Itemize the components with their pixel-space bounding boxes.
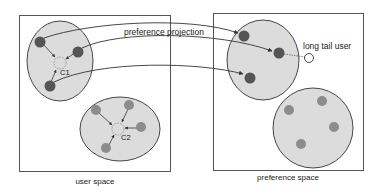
long-tail-user-node xyxy=(305,54,314,63)
cluster-label-c2: C2 xyxy=(121,133,131,142)
preference-space-caption: preference space xyxy=(257,173,319,182)
preference-node xyxy=(329,122,339,132)
preference-node xyxy=(245,73,256,84)
user-node xyxy=(136,122,146,132)
preference-cluster-top xyxy=(227,20,299,100)
preference-cluster-bottom xyxy=(273,88,353,168)
cluster-c2: C2 xyxy=(80,97,160,161)
diagram-canvas: C1 C2 user space xyxy=(0,0,384,194)
cluster-label-c1: C1 xyxy=(60,68,70,77)
preference-node xyxy=(239,31,250,42)
user-node xyxy=(35,37,46,48)
preference-node xyxy=(317,96,327,106)
user-space-panel: C1 C2 user space xyxy=(20,16,171,187)
user-space-caption: user space xyxy=(75,177,115,186)
preference-node xyxy=(274,48,285,59)
user-node xyxy=(73,47,84,58)
user-node xyxy=(124,100,134,110)
user-node xyxy=(91,105,101,115)
preference-space-panel: long tail user preference space xyxy=(214,14,364,183)
preference-projection-label: preference projection xyxy=(124,27,204,37)
user-node xyxy=(45,81,56,92)
preference-node xyxy=(296,139,306,149)
user-node xyxy=(101,143,111,153)
long-tail-user-label: long tail user xyxy=(303,41,351,51)
preference-node xyxy=(284,105,294,115)
